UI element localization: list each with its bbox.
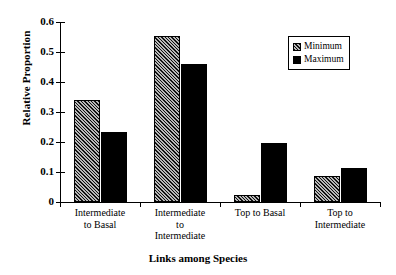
bar-maximum-1	[101, 132, 127, 202]
y-axis-tick-label: 0.3	[26, 106, 54, 117]
y-axis-tick	[56, 112, 65, 113]
y-axis-tick	[56, 142, 65, 143]
y-axis-tick-label: 0.4	[26, 76, 54, 87]
y-axis-tick-label: 0.5	[26, 46, 54, 57]
y-axis-tick-labels: 00.10.20.30.40.50.6	[24, 0, 54, 275]
y-axis-tick-label: 0.6	[26, 16, 54, 27]
bar-minimum-4	[314, 176, 340, 202]
x-axis-title: Links among Species	[0, 252, 396, 264]
legend: Minimum Maximum	[288, 36, 350, 70]
y-axis-tick-label: 0.2	[26, 136, 54, 147]
legend-swatch-minimum-icon	[293, 43, 301, 51]
x-axis-category-label: IntermediatetoIntermediate	[134, 207, 226, 242]
bar-maximum-2	[181, 64, 207, 202]
bar-maximum-3	[261, 143, 287, 202]
bar-minimum-3	[234, 195, 260, 203]
bar-maximum-4	[341, 168, 367, 202]
legend-label-minimum: Minimum	[304, 42, 342, 52]
y-axis-tick	[56, 82, 65, 83]
x-axis-category-label: Top to Basal	[214, 207, 306, 219]
legend-label-maximum: Maximum	[304, 55, 344, 65]
x-axis-category-label: Top toIntermediate	[294, 207, 386, 230]
bar-chart: Relative Proportion 00.10.20.30.40.50.6 …	[0, 0, 396, 275]
bar-minimum-2	[154, 36, 180, 202]
bar-minimum-1	[74, 100, 100, 202]
y-axis-tick	[56, 172, 65, 173]
y-axis-tick-label: 0	[26, 196, 54, 207]
y-axis-tick-label: 0.1	[26, 166, 54, 177]
legend-item-maximum: Maximum	[293, 53, 344, 66]
legend-swatch-maximum-icon	[293, 56, 301, 64]
y-axis-tick	[56, 52, 65, 53]
x-axis-category-label: Intermediateto Basal	[54, 207, 146, 230]
legend-item-minimum: Minimum	[293, 40, 344, 53]
y-axis-tick	[56, 22, 65, 23]
